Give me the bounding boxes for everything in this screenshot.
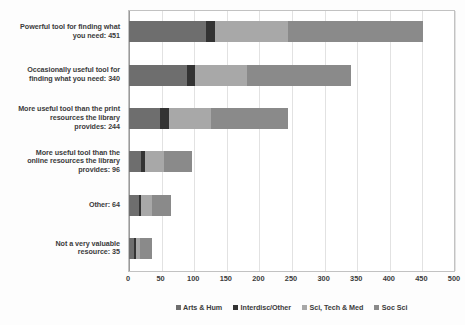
category-label-line: provides: 96 <box>0 166 120 175</box>
bar-segment <box>129 195 139 216</box>
bar-segment <box>152 195 170 216</box>
stacked-bar-chart: Powerful tool for finding whatyou need: … <box>0 0 465 325</box>
x-tick-label: 150 <box>220 274 232 283</box>
bar-segment <box>169 108 211 129</box>
bar-segment <box>145 151 163 172</box>
category-label: Other: 64 <box>0 201 120 210</box>
x-tick-label: 100 <box>187 274 199 283</box>
category-label: More useful tool than theonline resource… <box>0 149 120 175</box>
legend-swatch-icon <box>374 305 379 310</box>
bar-segment <box>215 21 288 42</box>
category-label-line: resource: 35 <box>0 248 120 257</box>
legend-label: Sci, Tech & Med <box>309 303 363 312</box>
bar-segment <box>129 21 206 42</box>
category-label: Not a very valuableresource: 35 <box>0 240 120 257</box>
x-tick-label: 200 <box>252 274 264 283</box>
legend-item[interactable]: Soc Sci <box>374 303 407 312</box>
x-tick-label: 300 <box>317 274 329 283</box>
category-label: More useful tool than the printresources… <box>0 105 120 131</box>
bar-row <box>129 238 152 259</box>
bar-segment <box>164 151 192 172</box>
legend-label: Arts & Hum <box>183 303 222 312</box>
legend-swatch-icon <box>233 305 238 310</box>
bar-segment <box>141 195 152 216</box>
x-tick-label: 450 <box>415 274 427 283</box>
bar-segment <box>247 65 351 86</box>
bar-row <box>129 21 423 42</box>
legend-swatch-icon <box>176 305 181 310</box>
bar-segment <box>129 151 141 172</box>
category-label-line: finding what you need: 340 <box>0 75 120 84</box>
legend-label: Interdisc/Other <box>241 303 291 312</box>
gridline <box>455 11 456 271</box>
x-tick-label: 50 <box>156 274 164 283</box>
bar-segment <box>288 21 423 42</box>
legend-label: Soc Sci <box>382 303 408 312</box>
x-tick-label: 350 <box>350 274 362 283</box>
category-label-line: provides: 244 <box>0 123 120 132</box>
bar-segment <box>211 108 288 129</box>
legend-item[interactable]: Interdisc/Other <box>233 303 291 312</box>
value-axis-tick-labels: 050100150200250300350400450500 <box>128 274 455 288</box>
category-label: Occasionally useful tool forfinding what… <box>0 66 120 83</box>
bar-segment <box>140 238 152 259</box>
legend-swatch-icon <box>302 305 307 310</box>
bar-segment <box>129 65 187 86</box>
bar-segment <box>195 65 247 86</box>
bar-segment <box>129 108 160 129</box>
x-tick-label: 0 <box>126 274 130 283</box>
bar-segment <box>160 108 168 129</box>
bar-segment <box>187 65 195 86</box>
category-axis-labels: Powerful tool for finding whatyou need: … <box>0 10 124 272</box>
category-label-line: Other: 64 <box>0 201 120 210</box>
legend-item[interactable]: Arts & Hum <box>176 303 223 312</box>
bars-layer <box>128 10 455 272</box>
x-tick-label: 500 <box>448 274 460 283</box>
legend-item[interactable]: Sci, Tech & Med <box>302 303 363 312</box>
category-label-line: you need: 451 <box>0 32 120 41</box>
category-label: Powerful tool for finding whatyou need: … <box>0 23 120 40</box>
bar-row <box>129 108 288 129</box>
bar-segment <box>206 21 215 42</box>
x-tick-label: 400 <box>383 274 395 283</box>
chart-legend: Arts & HumInterdisc/OtherSci, Tech & Med… <box>128 300 455 314</box>
bar-row <box>129 151 192 172</box>
x-tick-label: 250 <box>285 274 297 283</box>
bar-row <box>129 65 351 86</box>
bar-row <box>129 195 171 216</box>
